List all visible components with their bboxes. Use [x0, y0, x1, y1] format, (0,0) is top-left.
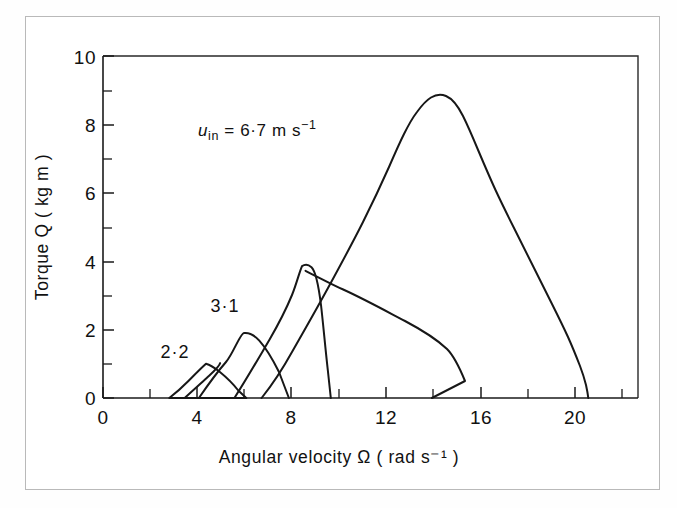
curve-4-4	[234, 265, 330, 398]
y-tick-label-6: 6	[85, 183, 96, 204]
y-tick-label-4: 4	[85, 252, 96, 273]
wind-speed-annotation: uin = 6·7 m s−1	[198, 118, 317, 143]
x-tick-label-0: 0	[97, 407, 108, 428]
curve-labels: 2·2 3·1	[160, 296, 239, 362]
annotation-subscript: in	[208, 129, 219, 143]
annotation-value: 6·7	[240, 121, 266, 140]
curve-label-3-1: 3·1	[210, 296, 239, 316]
curve-group	[169, 95, 588, 398]
annotation-unit-exponent: −1	[301, 118, 316, 132]
annotation-equals: =	[224, 121, 235, 140]
x-axis-tick-labels: 0 4 8 12 16 20	[97, 407, 586, 428]
curve-3-1	[199, 333, 289, 398]
torque-vs-angular-velocity-chart: 0 2 4 6 8 10 0 4 8 12 16	[0, 0, 677, 508]
curve-6-7	[262, 95, 589, 398]
y-tick-label-10: 10	[74, 47, 96, 68]
y-axis-tick-labels: 0 2 4 6 8 10	[74, 47, 96, 409]
curve-label-2-2: 2·2	[160, 342, 189, 362]
y-axis-title: Torque Q ( kg m )	[32, 154, 52, 300]
x-axis-title-text: Angular velocity Ω ( rad s⁻¹ )	[219, 447, 459, 467]
x-tick-label-16: 16	[470, 407, 492, 428]
curve-2-2	[169, 364, 246, 398]
x-tick-label-4: 4	[191, 407, 202, 428]
annotation-unit: m s	[272, 121, 301, 140]
annotation-text: uin = 6·7 m s−1	[198, 118, 317, 143]
y-tick-label-2: 2	[85, 320, 96, 341]
figure-container: 0 2 4 6 8 10 0 4 8 12 16	[0, 0, 677, 508]
x-tick-label-20: 20	[564, 407, 586, 428]
y-axis-ticks	[103, 56, 114, 398]
x-axis-title: Angular velocity Ω ( rad s⁻¹ )	[219, 447, 459, 467]
y-tick-label-0: 0	[85, 388, 96, 409]
x-tick-label-12: 12	[375, 407, 397, 428]
y-axis-title-text: Torque Q ( kg m )	[32, 154, 52, 300]
x-tick-label-8: 8	[285, 407, 296, 428]
y-tick-label-8: 8	[85, 115, 96, 136]
annotation-symbol: u	[198, 121, 208, 140]
